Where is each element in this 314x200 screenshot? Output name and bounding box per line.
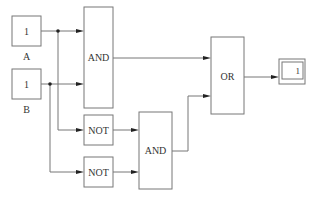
input-a-value: 1 bbox=[24, 26, 29, 37]
junction-dot-a bbox=[56, 29, 60, 33]
display-value: 1 bbox=[296, 66, 301, 76]
arrow-icon bbox=[203, 94, 211, 98]
input-b-label: B bbox=[23, 104, 30, 115]
and-gate-1[interactable]: AND bbox=[84, 7, 113, 108]
arrow-icon bbox=[76, 128, 84, 132]
junction-dot-b bbox=[48, 82, 52, 86]
arrow-icon bbox=[76, 29, 84, 33]
wire-a-not1 bbox=[58, 31, 80, 130]
arrow-icon bbox=[271, 75, 279, 79]
or-gate[interactable]: OR bbox=[211, 37, 244, 114]
not-gate-2[interactable]: NOT bbox=[84, 157, 113, 187]
input-block-b[interactable]: 1 bbox=[12, 69, 41, 99]
logic-diagram: 1 A 1 B AND NOT NOT AND OR 1 bbox=[0, 0, 314, 200]
input-block-a[interactable]: 1 bbox=[12, 16, 41, 46]
arrow-icon bbox=[76, 170, 84, 174]
and-gate-1-label: AND bbox=[88, 52, 110, 63]
input-a-label: A bbox=[23, 51, 31, 62]
and-gate-2[interactable]: AND bbox=[139, 112, 172, 189]
arrow-icon bbox=[131, 128, 139, 132]
arrow-icon bbox=[203, 56, 211, 60]
not-gate-2-label: NOT bbox=[88, 167, 109, 178]
input-b-value: 1 bbox=[24, 79, 29, 90]
or-gate-label: OR bbox=[221, 71, 235, 82]
not-gate-1[interactable]: NOT bbox=[84, 115, 113, 145]
output-display[interactable]: 1 bbox=[279, 59, 305, 84]
arrow-icon bbox=[131, 170, 139, 174]
not-gate-1-label: NOT bbox=[88, 125, 109, 136]
wire-and2-or bbox=[172, 96, 207, 151]
arrow-icon bbox=[76, 82, 84, 86]
and-gate-2-label: AND bbox=[145, 145, 167, 156]
wire-b-not2 bbox=[50, 84, 80, 172]
